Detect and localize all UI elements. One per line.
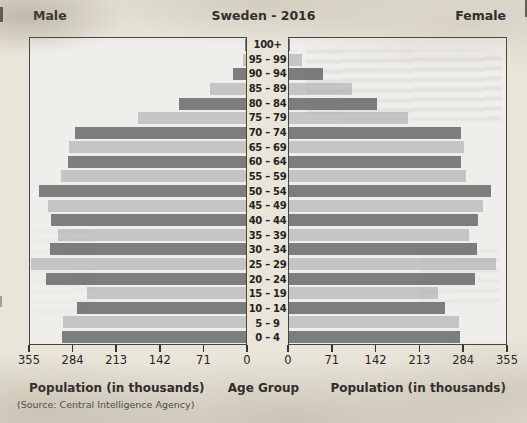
axis-tick-label: 284	[62, 353, 84, 367]
female-bar-row	[289, 242, 506, 257]
female-bar	[289, 141, 464, 153]
female-bar-row	[289, 271, 506, 286]
age-group-label: 40 – 44	[246, 213, 289, 228]
female-bar	[289, 302, 445, 314]
female-bar	[289, 127, 461, 139]
female-bar	[289, 83, 352, 95]
male-bar-row	[30, 125, 246, 140]
axis-tick-label: 355	[18, 353, 40, 367]
age-group-label: 60 – 64	[246, 154, 289, 169]
age-group-label: 90 – 94	[246, 66, 289, 81]
axis-tick-mark	[331, 345, 333, 352]
axis-tick-mark	[203, 345, 205, 352]
age-group-labels: 100+95 – 9990 – 9485 – 8980 – 8475 – 797…	[246, 37, 289, 345]
male-bar	[87, 287, 246, 299]
female-bar-row	[289, 53, 506, 68]
male-bar-row	[30, 315, 246, 330]
female-bar	[289, 316, 459, 328]
male-bar	[233, 68, 246, 80]
female-bar-row	[289, 96, 506, 111]
female-bar	[289, 170, 466, 182]
female-bar-row	[289, 67, 506, 82]
female-bars	[289, 38, 506, 344]
male-bar	[179, 98, 246, 110]
age-group-label: 80 – 84	[246, 96, 289, 111]
male-bar-row	[30, 228, 246, 243]
axis-tick-label: 0	[284, 353, 291, 367]
female-plot-area	[288, 37, 507, 345]
age-group-label: 70 – 74	[246, 125, 289, 140]
age-group-label: 15 – 19	[246, 286, 289, 301]
male-bar-row	[30, 286, 246, 301]
male-bar-row	[30, 67, 246, 82]
male-bar	[75, 127, 246, 139]
age-group-label: 5 – 9	[246, 316, 289, 331]
female-bar	[289, 331, 460, 343]
male-bar-row	[30, 213, 246, 228]
axis-tick-mark	[287, 345, 289, 352]
age-group-label: 100+	[246, 37, 289, 52]
female-bar	[289, 200, 483, 212]
male-bar	[50, 243, 246, 255]
female-bar	[289, 258, 496, 270]
female-bar-row	[289, 184, 506, 199]
age-group-label: 85 – 89	[246, 81, 289, 96]
axis-tick-mark	[115, 345, 117, 352]
male-bar	[68, 156, 246, 168]
female-bar-row	[289, 38, 506, 53]
female-bar-row	[289, 330, 506, 345]
age-group-label: 30 – 34	[246, 242, 289, 257]
right-axis-title: Population (in thousands)	[330, 381, 506, 395]
male-bar-row	[30, 184, 246, 199]
axis-tick-mark	[28, 345, 30, 352]
female-bar	[289, 98, 377, 110]
male-bar-row	[30, 38, 246, 53]
female-bar-row	[289, 228, 506, 243]
female-bar	[289, 112, 408, 124]
age-group-label: 20 – 24	[246, 272, 289, 287]
male-bar	[51, 214, 246, 226]
male-bar	[48, 200, 246, 212]
female-bar	[289, 243, 477, 255]
female-bar-row	[289, 125, 506, 140]
male-bar-row	[30, 300, 246, 315]
axis-tick-label: 71	[196, 353, 211, 367]
chart-title: Sweden - 2016	[0, 8, 527, 23]
axis-tick-label: 142	[365, 353, 387, 367]
male-bar	[62, 331, 246, 343]
source-note: (Source: Central Intelligence Agency)	[17, 399, 194, 410]
male-bar-row	[30, 257, 246, 272]
female-bar-row	[289, 213, 506, 228]
female-bar-row	[289, 140, 506, 155]
female-bar	[289, 273, 475, 285]
male-bar-row	[30, 53, 246, 68]
male-bar-row	[30, 96, 246, 111]
male-bars	[30, 38, 246, 344]
axis-tick-label: 71	[324, 353, 339, 367]
age-group-label: 0 – 4	[246, 330, 289, 345]
male-bar-row	[30, 82, 246, 97]
male-bar	[63, 316, 246, 328]
female-bar	[289, 185, 491, 197]
female-bar-row	[289, 169, 506, 184]
axis-tick-mark	[462, 345, 464, 352]
male-bar-row	[30, 111, 246, 126]
axis-tick-label: 0	[243, 353, 250, 367]
male-bar	[138, 112, 246, 124]
age-group-label: 25 – 29	[246, 257, 289, 272]
male-bar	[58, 229, 246, 241]
axis-tick-mark	[159, 345, 161, 352]
male-plot-area	[29, 37, 247, 345]
male-bar	[61, 170, 246, 182]
female-bar	[289, 214, 478, 226]
axis-tick-mark	[419, 345, 421, 352]
axis-tick-label: 355	[496, 353, 518, 367]
male-bar	[39, 185, 246, 197]
axis-tick-mark	[506, 345, 508, 352]
age-group-label: 50 – 54	[246, 184, 289, 199]
female-side-label: Female	[455, 8, 506, 23]
female-bar	[289, 156, 461, 168]
male-bar-row	[30, 169, 246, 184]
left-axis-tick-labels: 355284213142710	[29, 353, 247, 367]
female-bar-row	[289, 111, 506, 126]
